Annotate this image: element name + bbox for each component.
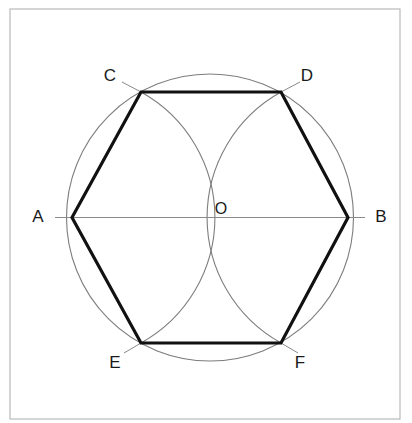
vertex-label-D: D [301,66,313,85]
vertex-label-F: F [295,353,305,372]
vertex-label-B: B [375,207,386,226]
geometry-figure-svg: ABCDEF O [0,0,412,423]
vertex-label-C: C [104,66,116,85]
vertex-label-A: A [32,207,44,226]
center-label-O: O [215,200,227,217]
vertex-label-E: E [109,353,120,372]
figure-root: ABCDEF O [0,0,412,423]
figure-frame-border [10,9,400,419]
